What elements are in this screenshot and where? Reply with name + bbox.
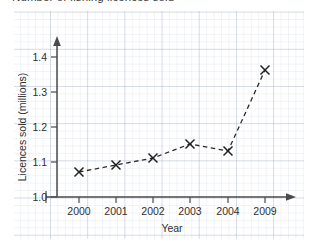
x-tick-label-3: 2003 bbox=[178, 205, 202, 217]
x-tick-labels: 2000 2001 2002 2003 2004 2009 bbox=[67, 205, 277, 217]
data-point-2003 bbox=[186, 140, 195, 149]
y-tick-labels: 1.0 1.1 1.2 1.3 1.4 bbox=[32, 51, 47, 203]
data-point-2009 bbox=[261, 66, 270, 75]
data-series-line bbox=[79, 70, 265, 172]
chart-plot-area: 1.0 1.1 1.2 1.3 1.4 2000 2001 2002 2003 … bbox=[0, 0, 312, 245]
x-axis-title: Year bbox=[161, 222, 183, 234]
y-tick-label-1: 1.1 bbox=[32, 156, 47, 168]
data-markers bbox=[75, 66, 270, 177]
x-tick-label-1: 2001 bbox=[104, 205, 128, 217]
y-tick-label-2: 1.2 bbox=[32, 121, 47, 133]
x-axis-arrowhead bbox=[286, 193, 296, 201]
x-axis bbox=[46, 191, 296, 203]
y-axis bbox=[51, 36, 61, 197]
x-tick-label-5: 2009 bbox=[253, 205, 277, 217]
data-point-2004 bbox=[224, 147, 233, 156]
y-tick-label-4: 1.4 bbox=[32, 51, 47, 63]
y-axis-title: Licences sold (millions) bbox=[16, 73, 28, 182]
y-axis-arrowhead bbox=[53, 36, 61, 46]
x-tick-label-4: 2004 bbox=[216, 205, 240, 217]
y-tick-label-0: 1.0 bbox=[32, 191, 47, 203]
x-tick-label-0: 2000 bbox=[67, 205, 91, 217]
y-tick-label-3: 1.3 bbox=[32, 86, 47, 98]
chart-container: Number of fishing licences sold 1.0 bbox=[0, 0, 312, 245]
x-tick-label-2: 2002 bbox=[141, 205, 165, 217]
